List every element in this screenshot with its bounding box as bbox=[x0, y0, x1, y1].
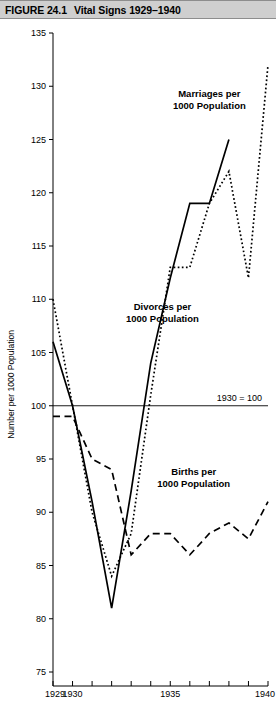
y-tick-label: 130 bbox=[31, 81, 46, 91]
y-tick-label: 85 bbox=[36, 561, 46, 571]
marriages-label: Marriages per bbox=[178, 88, 241, 99]
y-tick-label: 95 bbox=[36, 454, 46, 464]
data-series-group bbox=[53, 65, 268, 608]
y-tick-label: 80 bbox=[36, 614, 46, 624]
y-tick-label: 100 bbox=[31, 401, 46, 411]
figure-title: Vital Signs 1929–1940 bbox=[67, 4, 181, 16]
reference-line-label: 1930 = 100 bbox=[217, 393, 262, 403]
vital-signs-line-chart: 1351301251201151101051009590858075 19291… bbox=[0, 19, 276, 709]
x-tick-label: 1940 bbox=[255, 689, 275, 699]
y-tick-label: 105 bbox=[31, 348, 46, 358]
y-axis-ticks-group: 1351301251201151101051009590858075 bbox=[31, 28, 53, 677]
series-annotations-group: Marriages per1000 PopulationDivorces per… bbox=[126, 88, 246, 489]
chart-plot-area: 1351301251201151101051009590858075 19291… bbox=[0, 19, 276, 709]
y-tick-label: 110 bbox=[32, 294, 46, 304]
divorces-line bbox=[53, 140, 229, 609]
y-tick-label: 115 bbox=[32, 241, 46, 251]
y-tick-label: 135 bbox=[31, 28, 46, 38]
figure-container: FIGURE 24.1 Vital Signs 1929–1940 135130… bbox=[0, 0, 276, 709]
births-label: Births per bbox=[171, 466, 216, 477]
births-label-line2: 1000 Population bbox=[157, 478, 230, 489]
divorces-label: Divorces per bbox=[134, 301, 192, 312]
x-axis-ticks-group: 1929193019351940 bbox=[45, 681, 275, 699]
y-axis-title: Number per 1000 Population bbox=[6, 330, 16, 439]
y-tick-label: 75 bbox=[36, 667, 46, 677]
figure-title-bar: FIGURE 24.1 Vital Signs 1929–1940 bbox=[0, 0, 276, 19]
y-tick-label: 120 bbox=[31, 188, 46, 198]
divorces-label-line2: 1000 Population bbox=[126, 313, 199, 324]
x-tick-label: 1930 bbox=[63, 689, 83, 699]
figure-number: FIGURE 24.1 bbox=[0, 4, 67, 16]
x-tick-label: 1935 bbox=[160, 689, 180, 699]
y-tick-label: 90 bbox=[36, 507, 46, 517]
marriages-label-line2: 1000 Population bbox=[173, 100, 246, 111]
reference-line-group: 1930 = 100 bbox=[53, 393, 268, 406]
y-tick-label: 125 bbox=[31, 135, 46, 145]
axis-lines-group bbox=[53, 33, 268, 686]
y-axis-title-group: Number per 1000 Population bbox=[6, 330, 16, 439]
